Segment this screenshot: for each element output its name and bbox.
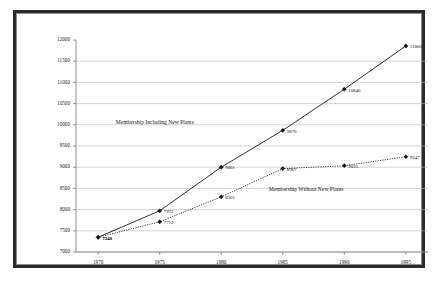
series-annotation: Membership Including New Plants bbox=[116, 119, 194, 125]
y-tick-label: 11000 bbox=[57, 79, 70, 85]
data-point-label: 10840 bbox=[348, 88, 361, 93]
series-marker-group bbox=[96, 44, 408, 240]
y-tick-mark-group bbox=[73, 40, 76, 252]
figure-canvas: 7000750080008500900095001000010500110001… bbox=[0, 0, 442, 282]
y-tick-label: 12000 bbox=[57, 36, 70, 42]
data-point-label: 11860 bbox=[410, 44, 423, 49]
data-point-marker bbox=[96, 235, 100, 239]
series-annotation: Membership Without New Plants bbox=[269, 186, 344, 192]
y-tick-label: 10500 bbox=[57, 100, 70, 106]
y-tick-label: 9000 bbox=[60, 163, 71, 169]
data-point-label: 9247 bbox=[410, 155, 420, 160]
series-line-group bbox=[98, 46, 406, 237]
data-point-label: 7972 bbox=[164, 209, 174, 214]
x-axis-group bbox=[76, 40, 428, 255]
x-tick-label: 1985 bbox=[278, 259, 289, 265]
y-tick-label: 8500 bbox=[60, 185, 71, 191]
data-point-label: 8301 bbox=[225, 195, 235, 200]
data-point-marker bbox=[219, 195, 223, 199]
x-tick-label: 1970 bbox=[93, 259, 104, 265]
data-point-label: 7348 bbox=[102, 236, 112, 241]
data-point-marker bbox=[158, 220, 162, 224]
x-tick-label: 1990 bbox=[339, 259, 350, 265]
data-point-label: 9870 bbox=[287, 129, 297, 134]
y-tick-label: 7000 bbox=[60, 248, 71, 254]
chart-outer-frame: 7000750080008500900095001000010500110001… bbox=[13, 10, 425, 268]
x-tick-label: 1980 bbox=[216, 259, 227, 265]
x-axis-tick-labels: 197019751980198519901995 bbox=[93, 259, 411, 265]
series-annotation-group: Membership Including New PlantsMembershi… bbox=[116, 119, 344, 193]
data-point-label: 8967 bbox=[287, 167, 297, 172]
plot-area: 7000750080008500900095001000010500110001… bbox=[32, 26, 438, 278]
series-line-1 bbox=[98, 46, 406, 237]
data-point-label: 9001 bbox=[225, 165, 235, 170]
data-point-label: 7712 bbox=[164, 220, 174, 225]
y-tick-label: 7500 bbox=[60, 227, 71, 233]
y-tick-label: 11500 bbox=[57, 57, 70, 63]
line-chart: 7000750080008500900095001000010500110001… bbox=[32, 26, 438, 278]
data-point-label: 9035 bbox=[348, 164, 358, 169]
x-tick-label: 1995 bbox=[401, 259, 412, 265]
y-tick-label: 8000 bbox=[60, 206, 71, 212]
x-tick-label: 1975 bbox=[155, 259, 166, 265]
y-tick-label: 9500 bbox=[60, 142, 71, 148]
gridline-group bbox=[76, 61, 428, 252]
series-line-2 bbox=[98, 157, 406, 238]
data-point-marker bbox=[404, 155, 408, 159]
y-tick-label: 10000 bbox=[57, 121, 70, 127]
y-axis-tick-labels: 7000750080008500900095001000010500110001… bbox=[57, 36, 70, 254]
